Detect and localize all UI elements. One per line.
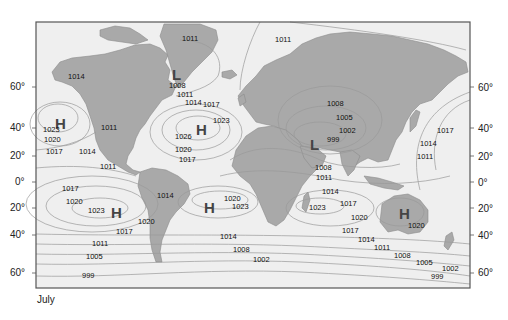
isobar-value-label: 1014 xyxy=(185,99,202,107)
isobar-value-label: 1017 xyxy=(342,227,359,235)
isobar-value-label: 1011 xyxy=(316,174,332,182)
isobar-value-label: 1011 xyxy=(374,244,390,252)
isobar-value-label: 1017 xyxy=(116,228,133,236)
latitude-label: 20° xyxy=(10,203,25,213)
isobar-value-label: 1017 xyxy=(437,127,454,135)
isobar-value-label: 1011 xyxy=(275,36,291,44)
isobar-value-label: 1017 xyxy=(340,200,357,208)
pressure-center-label: L xyxy=(172,67,181,82)
isobar-value-label: 1011 xyxy=(182,35,198,43)
isobar-value-label: 1014 xyxy=(220,233,237,241)
isobar-value-label: 1008 xyxy=(394,252,411,260)
isobar-value-label: 1020 xyxy=(44,136,61,144)
pressure-center-label: H xyxy=(204,200,215,215)
pressure-center-label: H xyxy=(111,205,122,220)
isobar-value-label: 1017 xyxy=(203,101,220,109)
isobar-value-label: 1020 xyxy=(66,198,83,206)
isobar-value-label: 1026 xyxy=(175,133,192,141)
isobar-value-label: 1008 xyxy=(327,100,344,108)
isobar-value-label: 1014 xyxy=(68,73,85,81)
isobar-value-label: 1017 xyxy=(179,156,196,164)
month-caption: July xyxy=(37,294,55,305)
isobar-value-label: 1023 xyxy=(43,126,60,134)
isobar-value-label: 999 xyxy=(431,273,444,281)
latitude-label: 0° xyxy=(15,177,25,187)
latitude-label: 60° xyxy=(10,82,25,92)
isobar-value-label: 1014 xyxy=(358,236,375,244)
isobar-value-label: 1005 xyxy=(86,253,103,261)
latitude-label: 60° xyxy=(478,83,493,93)
isobar-value-label: 1014 xyxy=(157,192,174,200)
isobar-value-label: 1014 xyxy=(420,140,437,148)
isobar-value-label: 1020 xyxy=(408,222,425,230)
isobar-value-label: 1011 xyxy=(417,153,433,161)
isobar-value-label: 1005 xyxy=(416,259,433,267)
isobar-value-label: 1011 xyxy=(101,124,117,132)
isobar-value-label: 1008 xyxy=(169,82,186,90)
isobar-value-label: 1008 xyxy=(315,164,332,172)
isobar-value-label: 1002 xyxy=(253,256,270,264)
isobar-value-label: 1011 xyxy=(100,163,116,171)
latitude-label: 60° xyxy=(478,268,493,278)
isobar-value-label: 1023 xyxy=(232,203,249,211)
pressure-center-label: H xyxy=(196,122,207,137)
latitude-label: 60° xyxy=(10,268,25,278)
isobar-value-label: 1023 xyxy=(88,207,105,215)
isobar-value-label: 999 xyxy=(82,272,95,280)
isobar-value-label: 1014 xyxy=(79,148,96,156)
isobar-value-label: 1020 xyxy=(138,218,155,226)
latitude-label: 20° xyxy=(10,151,25,161)
isobar-value-label: 1002 xyxy=(442,265,459,273)
isobar-value-label: 1020 xyxy=(351,214,368,222)
isobar-value-label: 1014 xyxy=(322,188,339,196)
pressure-center-label: L xyxy=(310,137,319,152)
isobar-value-label: 1017 xyxy=(46,148,63,156)
isobar-value-label: 1023 xyxy=(213,117,230,125)
pressure-center-label: H xyxy=(399,206,410,221)
isobar-value-label: 1020 xyxy=(175,146,192,154)
isobar-value-label: 1005 xyxy=(336,114,353,122)
isobar-value-label: 1011 xyxy=(92,240,108,248)
latitude-label: 40° xyxy=(478,231,493,241)
latitude-label: 40° xyxy=(10,230,25,240)
latitude-label: 40° xyxy=(10,123,25,133)
latitude-label: 40° xyxy=(478,124,493,134)
isobar-value-label: 1023 xyxy=(309,204,326,212)
isobar-value-label: 1002 xyxy=(339,127,356,135)
isobar-value-label: 999 xyxy=(327,136,340,144)
isobar-value-label: 1008 xyxy=(233,246,250,254)
latitude-label: 20° xyxy=(478,204,493,214)
latitude-label: 0° xyxy=(478,178,488,188)
latitude-label: 20° xyxy=(478,152,493,162)
isobar-value-label: 1017 xyxy=(62,185,79,193)
